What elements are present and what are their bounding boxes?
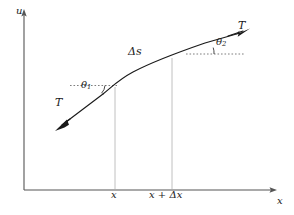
tension-left-arrowhead: [55, 120, 69, 132]
theta2-arc: [213, 48, 214, 54]
tension-right-label: T: [238, 20, 245, 31]
string-curve-left-segment: [66, 94, 103, 122]
tick-delta: Δx: [169, 189, 182, 200]
x-plus-delta-x-tick-label: x + Δx: [149, 190, 182, 200]
theta1-arc: [102, 86, 106, 94]
tick-operator: +: [158, 189, 166, 200]
angle-reference-lines: [70, 54, 244, 86]
x-tick-label: x: [111, 190, 117, 200]
theta1-subscript: 1: [87, 83, 91, 91]
x-axis-label: x: [277, 196, 283, 206]
tension-vector-left: [55, 119, 70, 131]
diagram-canvas: [0, 0, 294, 215]
tension-left-label: T: [55, 97, 62, 108]
string-curve-group: [66, 33, 240, 122]
angle-theta2-label: θ2: [216, 37, 226, 48]
theta2-subscript: 2: [222, 40, 226, 48]
arc-length-label: Δs: [128, 46, 142, 57]
angle-theta1-label: θ1: [81, 80, 91, 91]
string-tension-diagram: u x T T Δs θ1 θ2 x x + Δx: [0, 0, 294, 215]
y-axis-label: u: [16, 6, 22, 16]
